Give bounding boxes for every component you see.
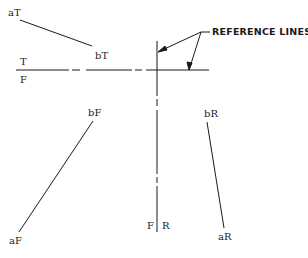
point-label-aF: aF: [9, 236, 22, 246]
callout-leaders: [158, 32, 210, 70]
line-right-view: [207, 122, 224, 228]
point-label-bR: bR: [204, 109, 218, 119]
line-front-view: [19, 121, 93, 232]
line-top-view: [20, 20, 92, 46]
point-label-bT: bT: [95, 51, 108, 61]
point-label-aR: aR: [218, 232, 232, 242]
point-label-bF: bF: [88, 108, 101, 118]
point-label-aT: aT: [8, 8, 21, 18]
plane-label-F-top: F: [20, 75, 27, 85]
projection-diagram: [0, 0, 308, 258]
plane-label-R: R: [162, 221, 170, 231]
reference-lines-label: REFERENCE LINES: [212, 27, 308, 37]
plane-label-F-side: F: [147, 221, 154, 231]
plane-label-T: T: [20, 57, 27, 67]
